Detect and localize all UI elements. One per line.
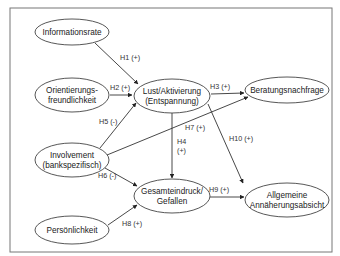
- node-ellipse: [245, 183, 329, 217]
- edge-label-h3: H3 (+): [210, 82, 230, 91]
- node-label: freundlichkeit: [48, 96, 97, 105]
- node-label: Persönlichkeit: [47, 226, 99, 235]
- node-informationsrate: Informationsrate: [35, 19, 109, 45]
- node-label: Orientierungs-: [46, 86, 98, 95]
- node-label: Gefallen: [157, 197, 188, 206]
- edge-label-h7: H7 (+): [185, 123, 205, 132]
- node-label: Beratungsnachfrage: [250, 86, 324, 95]
- edge-label-h2: H2 (+): [110, 83, 130, 92]
- node-label: Lust/Aktivierung: [143, 87, 202, 96]
- hypothesis-diagram: InformationsrateOrientierungs-freundlich…: [0, 0, 340, 256]
- edge-label-h10: H10 (+): [229, 134, 253, 143]
- node-beratung: Beratungsnachfrage: [245, 77, 329, 103]
- edge-h10: [208, 104, 243, 183]
- edge-label-h4: (+): [177, 146, 186, 155]
- node-label: (bankspezifisch): [42, 161, 101, 170]
- edge-label-h1: H1 (+): [120, 53, 140, 62]
- node-annaeherung: AllgemeineAnnäherungsabsicht: [245, 183, 329, 217]
- node-orientierung: Orientierungs-freundlichkeit: [35, 78, 109, 112]
- node-ellipse: [134, 179, 210, 213]
- edge-h3: [211, 93, 244, 94]
- edge-label-h9: H9 (+): [209, 185, 229, 194]
- node-label: Allgemeine: [267, 191, 308, 200]
- node-label: Annäherungsabsicht: [250, 201, 325, 210]
- edge-label-h8: H8 (+): [122, 219, 142, 228]
- edge-label-h5: H5 (-): [99, 117, 117, 126]
- node-label: Involvement: [50, 151, 95, 160]
- nodes-layer: InformationsrateOrientierungs-freundlich…: [35, 19, 329, 244]
- edge-h1: [95, 43, 138, 84]
- node-lust: Lust/Aktivierung(Entspannung): [134, 79, 210, 113]
- node-label: (Entspannung): [145, 97, 199, 106]
- node-label: Gesamteindruck/: [141, 187, 204, 196]
- node-ellipse: [35, 78, 109, 112]
- node-ellipse: [134, 79, 210, 113]
- node-persoenlichkeit: Persönlichkeit: [35, 216, 109, 244]
- node-label: Informationsrate: [42, 28, 102, 37]
- node-gesamteindruck: Gesamteindruck/Gefallen: [134, 179, 210, 213]
- edge-label-h6: H6 (-): [98, 171, 116, 180]
- edge-label-h4: H4: [177, 137, 186, 146]
